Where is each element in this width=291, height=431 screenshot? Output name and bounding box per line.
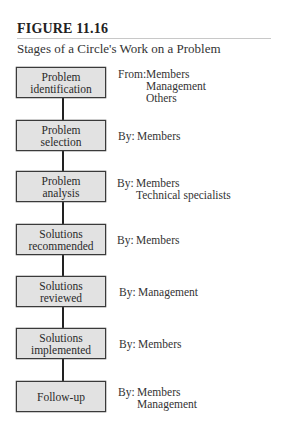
stage-actors-follow-up: By:Members Management	[118, 386, 197, 410]
stage-box-follow-up: Follow-up	[16, 381, 106, 412]
actor: Members	[137, 130, 180, 142]
stage-actors-problem-identification: From:Members Management Others	[118, 68, 206, 104]
stage-label-line1: Solutions	[28, 228, 93, 240]
stage-box-solutions-recommended: Solutionsrecommended	[16, 224, 106, 255]
stage-actors-solutions-implemented: By:Members	[119, 338, 181, 350]
stage-label-line2: selection	[41, 136, 82, 148]
connector-4-5	[62, 255, 64, 277]
connector-3-4	[62, 202, 64, 225]
stage-box-problem-selection: Problemselection	[16, 120, 106, 151]
stage-label-line1: Follow-up	[37, 391, 85, 403]
stage-label-line2: identification	[30, 83, 91, 95]
actor-prefix: By:	[118, 386, 137, 398]
actor: Management	[118, 398, 197, 410]
stage-actors-solutions-recommended: By:Members	[117, 234, 179, 246]
actor: Management	[118, 80, 206, 92]
title-rule	[17, 38, 271, 39]
actor-prefix: From:	[118, 68, 146, 80]
actor-prefix: By:	[117, 177, 136, 189]
stage-actors-problem-selection: By:Members	[118, 130, 180, 142]
stage-box-solutions-reviewed: Solutionsreviewed	[16, 276, 106, 307]
connector-1-2	[62, 98, 64, 121]
stage-box-problem-identification: Problemidentification	[16, 67, 106, 98]
stage-box-solutions-implemented: Solutionsimplemented	[16, 328, 106, 359]
actor-prefix: By:	[118, 130, 137, 142]
actor-prefix: By:	[117, 234, 136, 246]
actor-prefix: By:	[119, 286, 138, 298]
stage-label-line2: reviewed	[39, 292, 82, 304]
connector-5-6	[62, 307, 64, 329]
connector-2-3	[62, 150, 64, 172]
stage-label-line2: implemented	[31, 344, 91, 356]
actor: Members	[137, 386, 180, 398]
actor: Members	[136, 177, 179, 189]
actor: Members	[138, 338, 181, 350]
stage-label-line1: Solutions	[39, 280, 82, 292]
stage-box-problem-analysis: Problemanalysis	[16, 171, 106, 202]
figure-label: FIGURE 11.16	[17, 21, 108, 37]
stage-label-line1: Problem	[30, 71, 91, 83]
actor: Technical specialists	[117, 189, 231, 201]
actor-prefix: By:	[119, 338, 138, 350]
actor: Others	[118, 92, 206, 104]
actor: Members	[136, 234, 179, 246]
stage-label-line2: analysis	[42, 187, 81, 199]
stage-label-line1: Solutions	[31, 332, 91, 344]
actor: Members	[146, 68, 189, 80]
stage-actors-problem-analysis: By:Members Technical specialists	[117, 177, 231, 201]
stage-actors-solutions-reviewed: By:Management	[119, 286, 198, 298]
stage-label-line2: recommended	[28, 240, 93, 252]
connector-6-7	[62, 359, 64, 382]
actor: Management	[138, 286, 198, 298]
stage-label-line1: Problem	[42, 175, 81, 187]
stage-label-line1: Problem	[41, 124, 82, 136]
figure-title: Stages of a Circle's Work on a Problem	[17, 41, 221, 57]
